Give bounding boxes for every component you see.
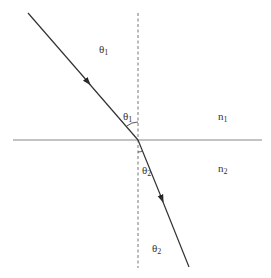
label-theta1-region: θ1 — [99, 44, 108, 57]
label-theta2-angle: θ2 — [142, 165, 151, 178]
refraction-diagram — [0, 0, 271, 278]
label-n2: n2 — [218, 163, 228, 176]
incident-ray-segment-1 — [28, 13, 88, 82]
angle-arc-theta2 — [138, 151, 143, 152]
incident-ray-segment-2 — [86, 80, 138, 140]
label-theta2-region: θ2 — [152, 243, 161, 256]
refracted-ray-segment-2 — [161, 197, 189, 267]
label-theta1-angle: θ1 — [123, 111, 132, 124]
label-n1: n1 — [218, 111, 228, 124]
